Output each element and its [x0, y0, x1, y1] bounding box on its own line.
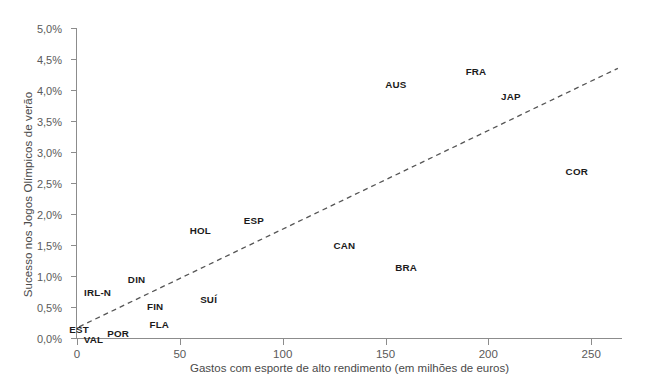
data-point-label: COR [566, 165, 588, 176]
x-axis-tick-label: 50 [173, 348, 186, 360]
x-axis-tick [488, 339, 489, 345]
data-point-label: SUÍ [200, 293, 217, 304]
y-axis-tick-label: 5,0% [37, 23, 62, 35]
y-axis-tick-label: 4,0% [37, 85, 62, 97]
data-point-label: BRA [395, 261, 417, 272]
x-axis-tick-label: 250 [582, 348, 601, 360]
y-axis-tick-label: 2,0% [37, 209, 62, 221]
x-axis-tick [386, 339, 387, 345]
y-axis-tick-label: 3,0% [37, 147, 62, 159]
data-point-label: VAL [84, 334, 103, 345]
x-axis-tick [77, 339, 78, 345]
x-axis-tick-label: 100 [273, 348, 292, 360]
data-point-label: ESP [244, 215, 264, 226]
y-axis-tick-label: 4,5% [37, 54, 62, 66]
data-point-label: HOL [190, 224, 211, 235]
y-axis-tick-label: 2,5% [37, 178, 62, 190]
data-point-label: AUS [385, 78, 406, 89]
x-axis-tick-label: 0 [74, 348, 80, 360]
x-axis-tick-label: 200 [479, 348, 498, 360]
data-point-label: CAN [333, 240, 355, 251]
plot-area: 0,0%0,5%1,0%1,5%2,0%2,5%3,0%3,5%4,0%4,5%… [77, 28, 622, 338]
x-axis-tick [283, 339, 284, 345]
data-point-label: DIN [128, 274, 145, 285]
data-point-label: JAP [501, 91, 521, 102]
y-axis-tick-label: 1,5% [37, 240, 62, 252]
y-axis-tick-label: 3,5% [37, 116, 62, 128]
scatter-chart: Sucesso nos Jogos Olímpicos de verão Gas… [0, 0, 653, 389]
x-axis-tick-label: 150 [376, 348, 395, 360]
data-point-label: FRA [466, 66, 487, 77]
trend-line [77, 28, 622, 339]
y-axis-tick-label: 1,0% [37, 271, 62, 283]
x-axis-tick [180, 339, 181, 345]
data-point-label: IRL-N [84, 286, 111, 297]
x-axis-tick [591, 339, 592, 345]
y-axis-tick-label: 0,0% [37, 333, 62, 345]
y-axis-tick-label: 0,5% [37, 302, 62, 314]
data-point-label: FLA [149, 319, 169, 330]
data-point-label: POR [107, 328, 129, 339]
data-point-label: EST [69, 323, 89, 334]
x-axis-title: Gastos com esporte de alto rendimento (e… [77, 362, 622, 374]
data-point-label: FIN [147, 300, 163, 311]
